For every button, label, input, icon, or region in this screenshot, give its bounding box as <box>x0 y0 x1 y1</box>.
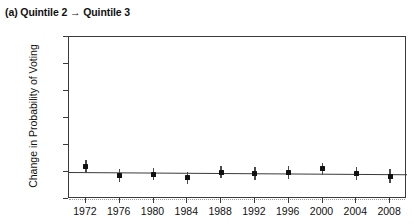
data-point <box>83 164 88 169</box>
plot-area <box>68 36 406 198</box>
x-tick-mark <box>355 198 356 203</box>
x-tick-label: 2008 <box>366 206 412 217</box>
data-point <box>354 171 359 176</box>
y-axis-title: Change in Probability of Voting <box>27 21 39 211</box>
x-tick-mark <box>119 198 120 203</box>
x-tick-mark <box>85 198 86 203</box>
x-tick-mark <box>153 198 154 203</box>
plot-inner <box>69 37 405 197</box>
data-point <box>185 175 190 180</box>
x-tick-mark <box>389 198 390 203</box>
chart-panel: (a) Quintile 2 → Quintile 3 Change in Pr… <box>0 0 414 224</box>
x-tick-mark <box>254 198 255 203</box>
data-point <box>117 173 122 178</box>
data-point <box>286 170 291 175</box>
panel-title: (a) Quintile 2 → Quintile 3 <box>5 6 130 18</box>
x-tick-mark <box>220 198 221 203</box>
x-tick-mark <box>322 198 323 203</box>
data-point <box>388 174 393 179</box>
y-tick-mark <box>63 198 68 199</box>
data-point <box>252 171 257 176</box>
x-tick-mark <box>186 198 187 203</box>
data-point <box>151 172 156 177</box>
x-tick-mark <box>288 198 289 203</box>
data-point <box>320 166 325 171</box>
data-point <box>219 170 224 175</box>
